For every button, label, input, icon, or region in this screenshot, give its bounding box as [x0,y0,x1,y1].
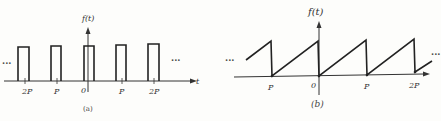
f-axis-label: f(t) [81,14,94,23]
tick-label: 2P [408,81,420,90]
panel-b: f(t) P 0 P 2P ··· ··· (b) [225,6,440,109]
pulse [116,45,126,81]
tick-label: 0 [311,81,316,90]
ellipsis-left: ··· [2,58,11,68]
tick-label: P [363,82,370,91]
tick-label: 0 [81,86,86,95]
f-axis-arrow-icon [86,27,91,34]
pulse [84,46,94,81]
t-axis-label: t [196,77,200,86]
tick-label: P [53,87,60,96]
pulse [51,46,61,81]
caption-a: (a) [83,105,93,113]
caption-b: (b) [311,99,324,109]
pulse [148,44,159,81]
tick-label: P [267,83,274,92]
f-axis-label: f(t) [307,6,324,17]
tick-label: 2P [148,87,160,96]
figure-canvas: t f(t) 2P P 0 P [0,0,441,121]
panel-a: t f(t) 2P P 0 P [2,14,200,113]
t-axis-arrow-icon [423,72,430,77]
tick-label: P [118,87,125,96]
ellipsis-right: ··· [171,55,180,65]
periodic-waveforms-figure: t f(t) 2P P 0 P [0,0,441,121]
pulse [18,47,29,81]
t-axis [234,74,424,77]
f-axis-arrow-icon [317,21,322,28]
sawtooth-wave [246,39,432,76]
ellipsis-right: ··· [431,49,440,59]
tick-label: 2P [21,87,33,96]
ellipsis-left: ··· [225,55,234,65]
